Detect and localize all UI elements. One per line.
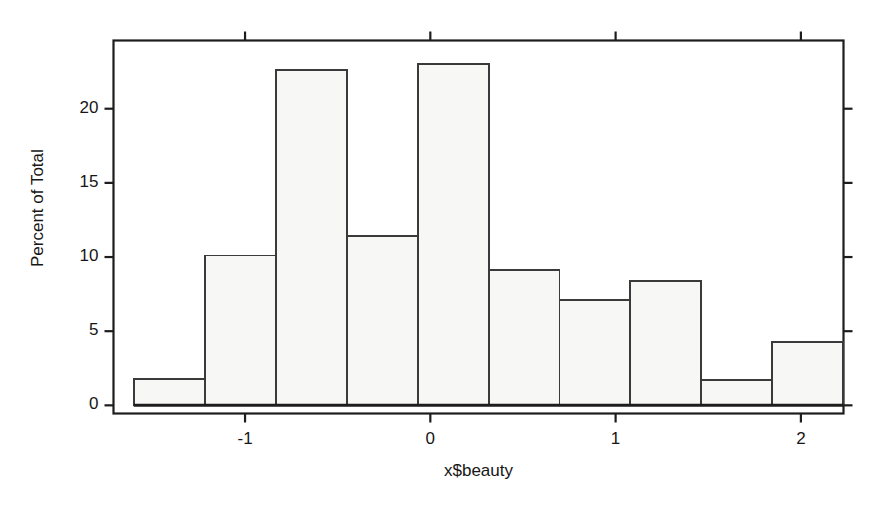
histogram-bar — [418, 64, 489, 405]
histogram-bar — [772, 342, 843, 406]
histogram-bar — [134, 379, 205, 406]
histogram-bar — [559, 300, 630, 405]
plot-canvas — [0, 0, 888, 512]
histogram-figure: Percent of Total x$beauty 05101520 -1012 — [0, 0, 888, 512]
histogram-bar — [630, 281, 701, 406]
bar-group — [134, 64, 843, 405]
histogram-bar — [276, 70, 347, 405]
histogram-bar — [489, 270, 560, 405]
histogram-bar — [205, 256, 276, 406]
histogram-bar — [701, 380, 772, 405]
histogram-bar — [347, 236, 418, 405]
